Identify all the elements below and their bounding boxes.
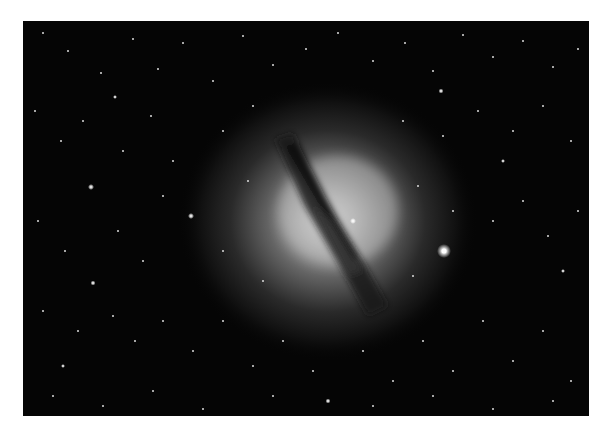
galaxy-photograph xyxy=(23,21,589,416)
galaxy-image xyxy=(23,21,589,416)
